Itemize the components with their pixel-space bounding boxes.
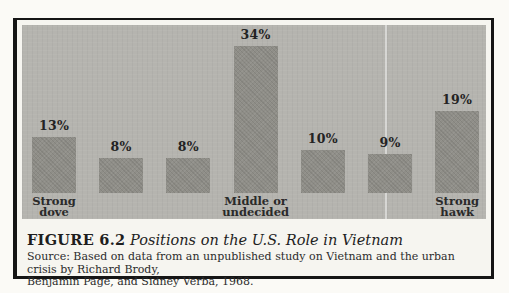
bar-value-label: 8% (111, 139, 132, 154)
plot-area: 13%Strong dove8%8%34%Middle or undecided… (22, 25, 486, 219)
bar-category-label: Strong dove (6, 196, 102, 218)
bar-category-label: Middle or undecided (208, 196, 304, 218)
figure-number-label: FIGURE 6.2 (27, 231, 125, 248)
bar-value-label: 13% (39, 118, 69, 133)
figure-frame: 13%Strong dove8%8%34%Middle or undecided… (13, 18, 494, 279)
bar (99, 158, 143, 193)
bar-value-label: 34% (241, 27, 271, 42)
bar (368, 154, 412, 193)
bar-value-label: 9% (379, 135, 400, 150)
bar (301, 150, 345, 193)
bar (166, 158, 210, 193)
bar-group: 9% (368, 154, 412, 193)
bar-group: 8% (99, 158, 143, 193)
bar (435, 111, 479, 193)
scanned-figure-page: 13%Strong dove8%8%34%Middle or undecided… (0, 0, 509, 293)
bar-group: 34%Middle or undecided (234, 46, 278, 193)
bar-group: 8% (166, 158, 210, 193)
bar-value-label: 19% (442, 92, 472, 107)
bar-value-label: 10% (308, 131, 338, 146)
bar-group: 10% (301, 150, 345, 193)
figure-caption-line: FIGURE 6.2 Positions on the U.S. Role in… (27, 232, 482, 248)
bar (32, 137, 76, 193)
bar (234, 46, 278, 193)
figure-caption: FIGURE 6.2 Positions on the U.S. Role in… (27, 232, 482, 289)
figure-source-note: Source: Based on data from an unpublishe… (27, 251, 482, 289)
bar-group: 13%Strong dove (32, 137, 76, 193)
bar-value-label: 8% (178, 139, 199, 154)
bar-category-label: Strong hawk (409, 196, 505, 218)
figure-title: Positions on the U.S. Role in Vietnam (130, 232, 403, 248)
bar-group: 19%Strong hawk (435, 111, 479, 193)
